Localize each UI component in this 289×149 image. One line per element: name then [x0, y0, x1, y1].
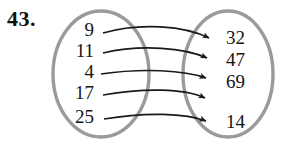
mapping-diagram-svg: 9 11 4 17 25 32 47 69 14	[0, 0, 289, 149]
mapping-arrow-4-to-47	[101, 71, 206, 78]
codomain-element-1: 32	[226, 27, 245, 48]
domain-element-4: 17	[75, 82, 94, 103]
domain-element-1: 9	[85, 19, 95, 40]
mapping-arrow-11-to-47	[103, 48, 207, 58]
mapping-arrow-25-to-14	[104, 114, 206, 121]
mapping-arrow-17-to-69	[103, 90, 205, 98]
domain-element-5: 25	[75, 106, 94, 127]
codomain-element-2: 47	[226, 49, 245, 70]
codomain-element-3: 69	[226, 71, 245, 92]
domain-element-2: 11	[76, 40, 94, 61]
codomain-element-4: 14	[226, 111, 246, 132]
mapping-diagram-figure: 43. 9 11 4 17 25 32 47 69 14	[0, 0, 289, 149]
domain-element-3: 4	[85, 61, 95, 82]
